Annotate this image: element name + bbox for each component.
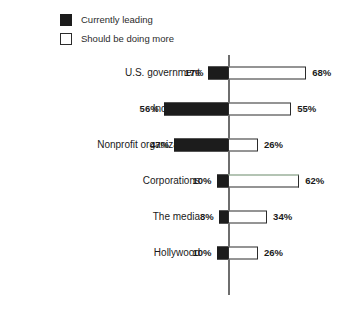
legend-label-should-be-doing-more: Should be doing more [81,34,174,44]
diverging-bar-chart: Currently leading Should be doing more U… [0,0,348,309]
bar-should-be-doing-more [228,175,299,188]
bar-row: Nonprofit organizations47%26% [0,127,348,163]
bar-row: Hollywood10%26% [0,235,348,271]
value-label-should-be-doing-more: 26% [264,248,283,258]
value-label-should-be-doing-more: 26% [264,140,283,150]
bar-should-be-doing-more [228,247,258,260]
bar-should-be-doing-more [228,67,306,80]
bar-should-be-doing-more [228,211,267,224]
value-label-should-be-doing-more: 62% [305,176,324,186]
plot-area: U.S. government17%68%Individuals56%55%No… [0,55,348,300]
legend-item-should-be-doing-more: Should be doing more [60,29,260,48]
bar-currently-leading [164,103,228,116]
value-label-should-be-doing-more: 34% [273,212,292,222]
bar-currently-leading [217,247,229,260]
value-label-currently-leading: 10% [192,176,211,186]
bar-should-be-doing-more [228,139,258,152]
bar-row: Individuals56%55% [0,91,348,127]
bar-row: The media8%34% [0,199,348,235]
value-label-currently-leading: 8% [200,212,214,222]
bar-currently-leading [208,67,228,80]
bar-currently-leading [219,211,228,224]
bar-row: U.S. government17%68% [0,55,348,91]
bar-rows: U.S. government17%68%Individuals56%55%No… [0,55,348,271]
row-category-label: The media [153,212,200,222]
row-category-label: Corporations [143,176,200,186]
value-label-currently-leading: 17% [184,68,203,78]
filled-square-icon [60,14,72,26]
outlined-square-icon [60,33,72,45]
chart-legend: Currently leading Should be doing more [60,10,260,48]
legend-label-currently-leading: Currently leading [81,15,153,25]
bar-currently-leading [174,139,228,152]
bar-should-be-doing-more [228,103,291,116]
value-label-currently-leading: 10% [192,248,211,258]
legend-item-currently-leading: Currently leading [60,10,260,29]
value-label-currently-leading: 56% [140,104,159,114]
bar-row: Corporations10%62% [0,163,348,199]
value-label-currently-leading: 47% [150,140,169,150]
value-label-should-be-doing-more: 55% [297,104,316,114]
bar-currently-leading [217,175,229,188]
value-label-should-be-doing-more: 68% [312,68,331,78]
